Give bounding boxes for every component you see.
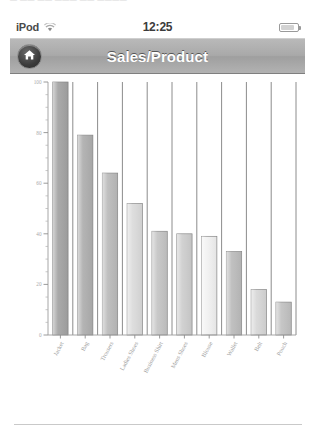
bar [226,252,241,335]
page-title: Sales/Product [10,48,305,65]
chart-y-axis: 020406080100 [34,79,48,338]
x-tick-label: Trousers [99,340,114,362]
bar-shading [251,289,266,335]
status-bar: iPod 12:25 [10,16,305,38]
home-button[interactable] [17,44,42,69]
navigation-bar: Sales/Product [10,38,305,74]
x-tick-label: Bag [80,341,90,352]
battery-icon [279,23,299,32]
y-tick-label: 0 [39,332,42,338]
y-tick-label: 80 [36,130,42,136]
wifi-icon [44,18,56,36]
bar-shading [127,203,142,335]
y-tick-label: 60 [36,180,42,186]
bar [251,289,266,335]
bar [78,135,93,335]
chart-canvas: 020406080100 JacketBagTrousersLadies Sho… [10,74,305,388]
bar-shading [202,236,217,335]
bar-shading [152,231,167,335]
bar-shading [102,173,117,335]
carrier-label: iPod [16,21,39,33]
bar [202,236,217,335]
status-bar-right [279,23,299,32]
x-tick-label: Belt [253,340,263,352]
bar [152,231,167,335]
scan-top-artifact-text: — —— —— ——— —— ———— [10,0,315,3]
bar-shading [226,252,241,335]
home-icon [23,47,36,65]
x-tick-label: Business Shirt [142,340,164,374]
bar-shading [78,135,93,335]
x-tick-label: Wallet [226,340,239,357]
page-divider [14,424,302,425]
bar-shading [177,234,192,335]
chart-x-axis: JacketBagTrousersLadies ShoesBusiness Sh… [48,335,296,374]
y-tick-label: 40 [36,231,42,237]
bar-shading [53,82,68,335]
scan-top-artifact: — —— —— ——— —— ———— [0,0,315,8]
y-tick-label: 100 [34,79,42,85]
x-tick-label: Mens Shoes [170,340,189,369]
bar [276,302,291,335]
y-tick-label: 20 [36,281,42,287]
bar [177,234,192,335]
bar-shading [276,302,291,335]
bar-chart: 020406080100 JacketBagTrousersLadies Sho… [10,74,305,388]
device-screen: iPod 12:25 Sales/Product [10,16,305,386]
x-tick-label: Jacket [52,340,64,356]
x-tick-label: Blouse [200,340,213,358]
bar [53,82,68,335]
status-bar-left: iPod [16,18,56,36]
x-tick-label: Pouch [276,341,288,357]
bar [102,173,117,335]
bar [127,203,142,335]
x-tick-label: Ladies Shoes [119,340,140,372]
